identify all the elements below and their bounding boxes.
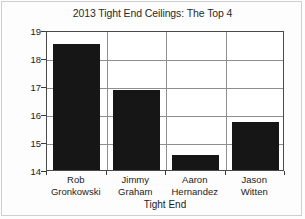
x-axis-tick-mark [284, 171, 285, 175]
y-axis-tick-mark [41, 143, 46, 144]
chart-page: 2013 Tight End Ceilings: The Top 4 PPG T… [0, 0, 305, 219]
x-axis-tick-label: JasonWitten [225, 174, 285, 197]
x-axis-tick-label: JimmyGraham [106, 174, 166, 197]
bar [172, 155, 219, 170]
x-axis-tick-label-line: Gronkowski [46, 186, 106, 198]
y-axis-tick-mark [41, 87, 46, 88]
x-axis-tick-label-line: Jason [225, 174, 285, 186]
y-axis-tick-mark [41, 31, 46, 32]
gridline-vertical [226, 32, 227, 170]
gridline-vertical [107, 32, 108, 170]
y-axis-tick-mark [41, 115, 46, 116]
y-axis-tick-label: 19 [15, 26, 41, 37]
y-axis-tick-label: 16 [15, 110, 41, 121]
gridline-vertical [166, 32, 167, 170]
plot-area [46, 31, 284, 171]
bar [53, 44, 100, 170]
x-axis-tick-label: AaronHernandez [165, 174, 225, 197]
x-axis-label: Tight End [46, 199, 284, 210]
bar [232, 122, 279, 170]
x-axis-tick-label-line: Hernandez [165, 186, 225, 198]
x-axis-tick-label-line: Jimmy [106, 174, 166, 186]
y-axis-tick-label: 14 [15, 166, 41, 177]
y-axis-tick-mark [41, 59, 46, 60]
x-axis-tick-label-line: Witten [225, 186, 285, 198]
x-axis-tick-label: RobGronkowski [46, 174, 106, 197]
y-axis-tick-label: 18 [15, 54, 41, 65]
bar [113, 90, 160, 170]
y-axis-tick-label: 17 [15, 82, 41, 93]
chart-title: 2013 Tight End Ceilings: The Top 4 [0, 7, 305, 19]
x-axis-tick-mark [46, 171, 47, 175]
x-axis-tick-label-line: Aaron [165, 174, 225, 186]
x-axis-tick-label-line: Rob [46, 174, 106, 186]
y-axis-tick-label: 15 [15, 138, 41, 149]
x-axis-tick-label-line: Graham [106, 186, 166, 198]
